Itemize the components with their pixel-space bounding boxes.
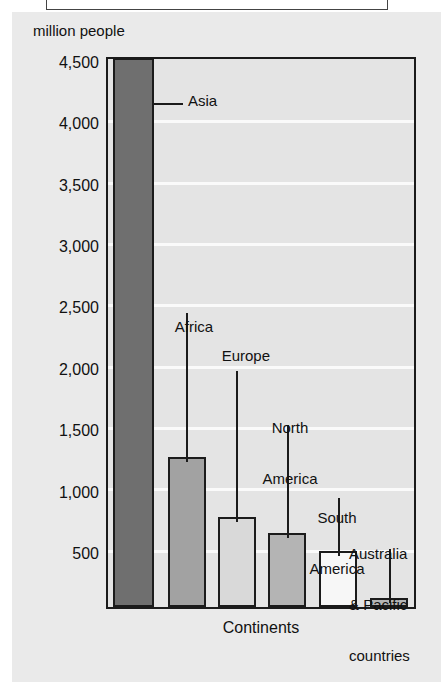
y-axis-ticks: 4,500 4,000 3,500 3,000 2,500 2,000 1,50… <box>33 57 99 609</box>
bar-europe[interactable] <box>218 517 256 607</box>
annotation-australia-line3: countries <box>349 647 423 664</box>
annotation-australia-line1: Australia <box>349 545 423 562</box>
annotation-europe-line1: Europe <box>222 347 270 364</box>
y-tick-3000: 3,000 <box>35 238 99 256</box>
bar-africa[interactable] <box>168 457 206 607</box>
y-tick-4500: 4,500 <box>35 54 99 72</box>
annotation-australia-pacific: Australia & Pacific countries <box>349 511 423 682</box>
annotation-north-america-line1: North <box>259 419 321 436</box>
y-tick-1000: 1,000 <box>35 484 99 502</box>
annotation-europe: Europe <box>205 330 270 381</box>
y-tick-2000: 2,000 <box>35 361 99 379</box>
y-tick-4000: 4,000 <box>35 115 99 133</box>
y-tick-500: 500 <box>35 545 99 563</box>
x-axis-caption: Continents <box>106 619 416 637</box>
y-tick-3500: 3,500 <box>35 177 99 195</box>
figure-page: World population by continent million pe… <box>0 0 441 682</box>
annotation-australia-line2: & Pacific <box>349 596 423 613</box>
y-tick-1500: 1,500 <box>35 422 99 440</box>
bar-asia[interactable] <box>113 58 154 607</box>
leader-line-asia <box>153 103 183 105</box>
leader-line-europe <box>236 371 238 522</box>
annotation-asia: Asia <box>188 92 217 109</box>
y-tick-2500: 2,500 <box>35 299 99 317</box>
y-axis-unit-label: million people <box>33 22 125 39</box>
chart-title-box: World population by continent <box>46 0 388 10</box>
bar-north-america[interactable] <box>268 533 306 607</box>
